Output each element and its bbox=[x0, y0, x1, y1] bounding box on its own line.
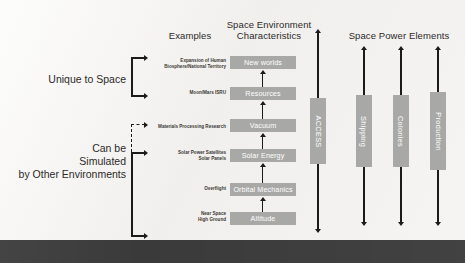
power-bar-label-colonies: Colonies bbox=[397, 115, 406, 146]
power-bar-group-production: Production bbox=[426, 50, 450, 222]
characteristic-box-new-worlds[interactable]: New worlds bbox=[230, 56, 296, 69]
column-header-power-elements: Space Power Elements bbox=[337, 30, 461, 41]
example-label-4: Overflight bbox=[148, 186, 226, 192]
bracket-simulated-arrow-bottom bbox=[144, 233, 148, 239]
power-bar-box-shipping[interactable]: Shipping bbox=[356, 95, 372, 167]
access-bar-label: ACCESS bbox=[314, 115, 323, 147]
characteristic-box-solar-energy[interactable]: Solar Energy bbox=[230, 149, 296, 162]
bracket-simulated-arm-mid bbox=[131, 152, 145, 154]
example-label-2: Materials Processing Research bbox=[140, 124, 226, 130]
characteristic-box-vacuum[interactable]: Vacuum bbox=[230, 119, 296, 132]
flow-arrow-resources-to-new-worlds bbox=[262, 73, 263, 87]
example-label-2-line1: Materials Processing Research bbox=[140, 124, 226, 130]
access-bar-box[interactable]: ACCESS bbox=[310, 98, 326, 164]
bracket-simulated-arm-bottom bbox=[131, 235, 145, 237]
bracket-simulated-vertical bbox=[131, 152, 133, 237]
example-label-3: Solar Power Satellites Solar Panels bbox=[148, 150, 226, 161]
column-header-characteristics: Space Environment Characteristics bbox=[222, 19, 316, 41]
example-label-1-line1: Moon/Mars ISRU bbox=[148, 90, 226, 96]
example-label-3-line2: Solar Panels bbox=[148, 156, 226, 162]
characteristic-box-orbital-mechanics[interactable]: Orbital Mechanics bbox=[230, 183, 296, 196]
flow-arrow-altitude-to-orbital-mechanics bbox=[262, 200, 263, 212]
characteristic-box-altitude[interactable]: Altitude bbox=[230, 212, 296, 225]
example-label-0: Expansion of Human Biosphere/National Te… bbox=[148, 58, 226, 69]
column-header-characteristics-line1: Space Environment bbox=[222, 19, 316, 30]
power-bar-box-colonies[interactable]: Colonies bbox=[393, 95, 409, 167]
group-label-can-be-simulated: Can be Simulated by Other Environments bbox=[2, 142, 126, 181]
slide-canvas: Examples Space Environment Characteristi… bbox=[0, 0, 465, 263]
group-label-simulated-line1: Can be bbox=[2, 142, 126, 155]
power-bar-group-colonies: Colonies bbox=[389, 50, 413, 222]
group-label-unique-to-space: Unique to Space bbox=[2, 73, 126, 86]
example-label-5-line2: High Ground bbox=[148, 217, 226, 223]
power-bar-label-production: Production bbox=[434, 112, 443, 150]
example-label-0-line2: Biosphere/National Territory bbox=[148, 64, 226, 70]
power-bar-label-shipping: Shipping bbox=[360, 115, 369, 146]
bracket-unique-arm-top bbox=[131, 57, 145, 59]
flow-arrow-solar-energy-to-vacuum bbox=[262, 136, 263, 149]
example-label-4-line1: Overflight bbox=[148, 186, 226, 192]
example-label-5: Near Space High Ground bbox=[148, 211, 226, 222]
example-label-1: Moon/Mars ISRU bbox=[148, 90, 226, 96]
characteristic-box-resources[interactable]: Resources bbox=[230, 87, 296, 100]
power-bar-box-production[interactable]: Production bbox=[430, 92, 446, 170]
flow-arrow-vacuum-to-resources bbox=[262, 104, 263, 119]
column-header-examples: Examples bbox=[159, 30, 221, 41]
column-header-characteristics-line2: Characteristics bbox=[222, 30, 316, 41]
bracket-unique-arm-bottom bbox=[131, 95, 145, 97]
footer-bar bbox=[0, 240, 465, 263]
power-bar-group-shipping: Shipping bbox=[352, 50, 376, 222]
access-bar-group: ACCESS bbox=[306, 33, 330, 229]
bracket-unique-vertical bbox=[131, 57, 133, 97]
group-label-simulated-line3: by Other Environments bbox=[2, 168, 126, 181]
flow-arrow-orbital-mechanics-to-solar-energy bbox=[262, 166, 263, 183]
bracket-simulated-dashed-vertical bbox=[131, 124, 132, 152]
group-label-simulated-line2: Simulated bbox=[2, 155, 126, 168]
